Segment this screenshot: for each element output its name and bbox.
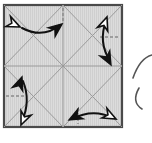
clipped-stroke-lower-right xyxy=(136,88,142,109)
edge-marks-group xyxy=(133,55,152,109)
origami-figure: Origami crease pattern square with fold-… xyxy=(0,0,152,143)
clipped-stroke-upper-right xyxy=(133,55,152,78)
origami-diagram-canvas: Origami crease pattern square with fold-… xyxy=(0,0,152,143)
